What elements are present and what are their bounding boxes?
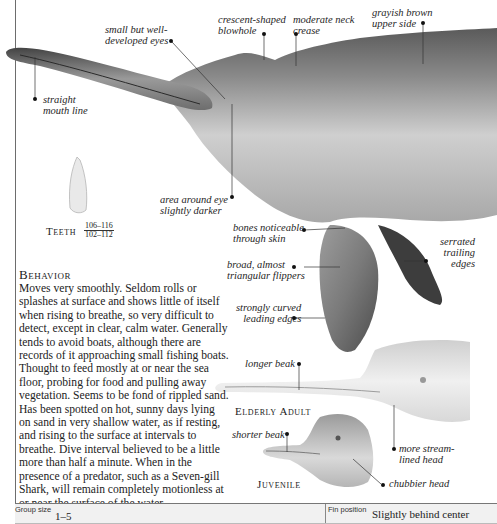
facts-footer: Group size 1–5 Fin position Slightly beh… bbox=[15, 503, 497, 524]
teeth-caption: Teeth bbox=[46, 225, 76, 237]
far-flipper bbox=[378, 225, 442, 305]
leader-dot bbox=[421, 21, 425, 25]
leader-dot bbox=[424, 259, 428, 263]
label-streamlined-head: more stream- lined head bbox=[399, 443, 455, 465]
leader-dot bbox=[169, 39, 173, 43]
leader-dot bbox=[230, 195, 234, 199]
adult-flipper bbox=[320, 225, 379, 352]
teeth-count: 106–116 102–112 bbox=[84, 222, 114, 239]
label-mouth-line: straight mouth line bbox=[33, 94, 88, 116]
leader-dot bbox=[292, 316, 296, 320]
leader-dot bbox=[302, 228, 306, 232]
fin-position-label: Fin position bbox=[328, 505, 366, 514]
label-neck-crease: moderate neck crease bbox=[293, 14, 355, 36]
behavior-heading: Behavior bbox=[19, 267, 71, 283]
label-blowhole: crescent-shaped blowhole bbox=[218, 14, 286, 36]
label-leading-edges: strongly curved leading edges bbox=[236, 302, 301, 324]
leader-dot bbox=[262, 32, 266, 36]
tooth-drawing bbox=[69, 157, 86, 213]
label-chubbier-head: chubbier head bbox=[389, 478, 449, 489]
group-size-value: 1–5 bbox=[55, 510, 72, 522]
juvenile-head bbox=[263, 414, 373, 487]
label-eye-area: area around eye slightly darker bbox=[160, 194, 228, 216]
label-flippers: broad, almost triangular flippers bbox=[227, 259, 305, 281]
group-size-cell: Group size 1–5 bbox=[15, 504, 325, 523]
leader-dot bbox=[381, 483, 385, 487]
label-bones: bones noticeable through skin bbox=[233, 222, 304, 244]
label-upper-side: grayish brown upper side bbox=[372, 7, 433, 29]
leader-dot bbox=[297, 362, 301, 366]
juvenile-caption: Juvenile bbox=[257, 478, 301, 490]
teeth-lower-count: 102–112 bbox=[85, 230, 113, 239]
leader-dot bbox=[285, 432, 289, 436]
elderly-adult-caption: Elderly Adult bbox=[235, 405, 311, 417]
behavior-text: Moves very smoothly. Seldom rolls or spl… bbox=[19, 282, 229, 510]
leader-dot bbox=[294, 32, 298, 36]
group-size-label: Group size bbox=[15, 505, 51, 514]
fin-position-value: Slightly behind center bbox=[372, 508, 469, 520]
leader-dot bbox=[292, 265, 296, 269]
fin-position-cell: Fin position Slightly behind center bbox=[325, 504, 497, 523]
label-trailing-edges: serrated trailing edges bbox=[440, 236, 475, 269]
label-shorter-beak: shorter beak bbox=[232, 429, 285, 440]
label-eyes: small but well- developed eyes bbox=[105, 24, 168, 46]
leader-dot bbox=[392, 447, 396, 451]
label-longer-beak: longer beak bbox=[245, 358, 295, 369]
